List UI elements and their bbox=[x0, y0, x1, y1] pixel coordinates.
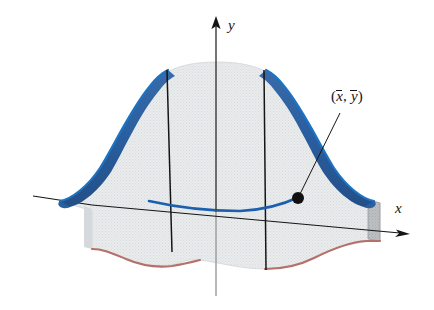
figure-root: y x (x, y) bbox=[0, 0, 434, 310]
centroid-label-x-bar: x bbox=[336, 89, 343, 104]
centroid-label-y-bar: y bbox=[351, 89, 358, 104]
y-overbar bbox=[350, 90, 356, 91]
y-axis-label: y bbox=[226, 17, 235, 33]
centroid-label: (x, y) bbox=[331, 89, 363, 104]
lamina-centroid-figure: y x bbox=[0, 0, 434, 310]
centroid-label-comma: , bbox=[343, 88, 347, 104]
x-axis-label: x bbox=[394, 200, 402, 216]
centroid-label-close-paren: ) bbox=[358, 88, 363, 104]
lamina-left-side-face bbox=[84, 206, 92, 249]
centroid-dot bbox=[292, 192, 304, 204]
x-overbar bbox=[336, 90, 342, 91]
